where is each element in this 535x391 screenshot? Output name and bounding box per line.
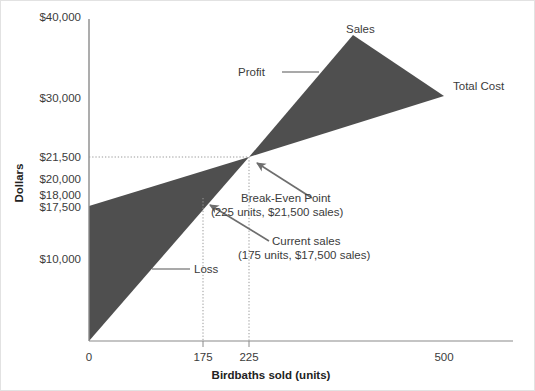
x-tick-label-225: 225: [219, 350, 279, 364]
annotation-break-even-point: Break-Even Point (225 units, $21,500 sal…: [241, 191, 441, 220]
y-tick-label-17500: $17,500: [15, 200, 81, 214]
series-label-profit: Profit: [238, 65, 265, 79]
annotation-break-even-line1: Break-Even Point: [241, 191, 441, 205]
x-axis-title: Birdbaths sold (units): [151, 369, 391, 381]
loss-region-fill: [89, 157, 249, 341]
break-even-chart-figure: Dollars $40,000 $30,000 $21,500 $20,000 …: [0, 0, 535, 391]
y-tick-label-40000: $40,000: [15, 10, 81, 24]
annotation-break-even-line2: (225 units, $21,500 sales): [211, 205, 441, 219]
annotation-current-sales-line2: (175 units, $17,500 sales): [238, 248, 438, 262]
y-tick-label-10000: $10,000: [15, 252, 81, 266]
x-tick-label-500: 500: [414, 350, 474, 364]
y-tick-label-20000: $20,000: [15, 172, 81, 186]
y-tick-label-30000: $30,000: [15, 91, 81, 105]
x-tick-label-0: 0: [59, 350, 119, 364]
series-label-loss: Loss: [194, 262, 218, 276]
series-label-total-cost: Total Cost: [453, 79, 504, 93]
annotation-current-sales: Current sales (175 units, $17,500 sales): [238, 234, 438, 263]
series-label-sales: Sales: [346, 22, 375, 36]
y-tick-label-21500: $21,500: [15, 150, 81, 164]
annotation-current-sales-line1: Current sales: [272, 234, 438, 248]
profit-region-fill: [249, 35, 444, 157]
